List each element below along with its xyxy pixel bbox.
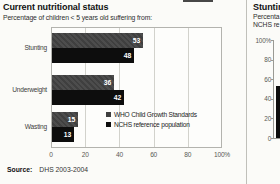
bar-stunting-who: 53 (52, 33, 143, 48)
bar-underweight-nchs: 42 (52, 90, 124, 105)
left-chart-title: Current nutritional status (3, 2, 108, 12)
right-chart-subtitle-line2: NCHS re (253, 21, 280, 28)
bar-value-label: 48 (124, 52, 134, 59)
gridline (188, 28, 189, 147)
right-chart-x-axis (273, 138, 280, 139)
report-charts-crop: Current nutritional status Percentage of… (0, 0, 280, 184)
y-tick-label: 80 (249, 56, 271, 63)
bar-value-label: 15 (68, 116, 78, 123)
bar-wasting-nchs: 13 (52, 127, 74, 142)
bar-value-label: 53 (133, 37, 143, 44)
category-label-underweight: Underweight (0, 86, 47, 93)
bar-wasting-who: 15 (52, 112, 78, 127)
y-tick-label: 60 (249, 76, 271, 83)
x-tick-label: 40 (104, 151, 134, 158)
bar-value-label: 13 (64, 131, 74, 138)
x-tick-label: 80 (173, 151, 203, 158)
y-tick-label: 40 (249, 95, 271, 102)
source-label: Source: (7, 166, 32, 173)
y-tickmark (271, 60, 274, 61)
x-tick-label: 0 (36, 151, 66, 158)
y-tick-label: 20 (249, 115, 271, 122)
right-chart-bar (276, 86, 280, 138)
right-chart-title: Stunting (253, 2, 280, 12)
left-chart-subtitle: Percentage of children < 5 years old suf… (3, 14, 152, 21)
bar-underweight-who: 36 (52, 75, 114, 90)
legend: WHO Child Growth StandardsNCHS reference… (106, 111, 197, 128)
y-tick-label: 100% (249, 37, 271, 44)
left-chart-panel: Current nutritional status Percentage of… (0, 0, 246, 184)
right-chart-panel: Stunting Percenta NCHS re 100%806040200 (247, 0, 280, 184)
category-label-wasting: Wasting (0, 123, 47, 130)
source-value: DHS 2003-2004 (39, 166, 88, 173)
legend-item: NCHS reference population (106, 121, 197, 128)
source-line: Source:DHS 2003-2004 (7, 166, 88, 173)
y-tickmark (271, 138, 274, 139)
legend-label: WHO Child Growth Standards (114, 111, 197, 118)
legend-marker (106, 122, 111, 127)
y-tick-label: 0 (249, 135, 271, 142)
bar-stunting-nchs: 48 (52, 48, 134, 63)
x-tick-label: 60 (139, 151, 169, 158)
x-tick-label: 20 (70, 151, 100, 158)
category-label-stunting: Stunting (0, 44, 47, 51)
legend-marker (106, 112, 111, 117)
x-tick-label: 100% (207, 151, 237, 158)
legend-label: NCHS reference population (114, 121, 190, 128)
right-chart-subtitle-line1: Percenta (253, 13, 279, 20)
legend-item: WHO Child Growth Standards (106, 111, 197, 118)
right-chart-y-axis (273, 40, 274, 138)
y-tickmark (271, 118, 274, 119)
y-tickmark (271, 40, 274, 41)
bar-value-label: 42 (114, 94, 124, 101)
y-tickmark (271, 79, 274, 80)
y-tickmark (271, 99, 274, 100)
gridline (154, 28, 155, 147)
bar-value-label: 36 (104, 79, 114, 86)
